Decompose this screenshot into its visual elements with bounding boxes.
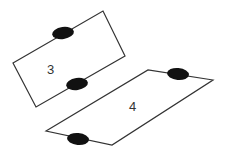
terminal-ellipse-4-bottom (67, 132, 90, 146)
shape-label-3: 3 (47, 62, 54, 77)
shape-4: 4 (46, 67, 213, 146)
parallelogram-3 (13, 11, 125, 107)
diagram-canvas: 3 4 (0, 0, 228, 154)
shape-3: 3 (13, 11, 125, 107)
shape-label-4: 4 (129, 99, 136, 114)
diagram-svg: 3 4 (0, 0, 228, 154)
terminal-ellipse-4-top (167, 67, 190, 81)
